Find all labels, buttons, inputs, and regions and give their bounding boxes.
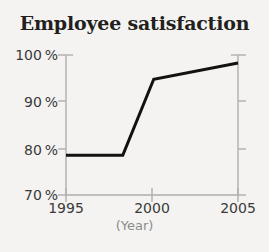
plot-area xyxy=(0,0,269,252)
y-axis-ticks xyxy=(58,55,246,195)
data-series-line-employee-satisfaction xyxy=(66,63,238,155)
chart-figure: Employee satisfaction 100 % 90 % 80 % 70… xyxy=(0,0,269,252)
axis-lines xyxy=(66,55,238,195)
